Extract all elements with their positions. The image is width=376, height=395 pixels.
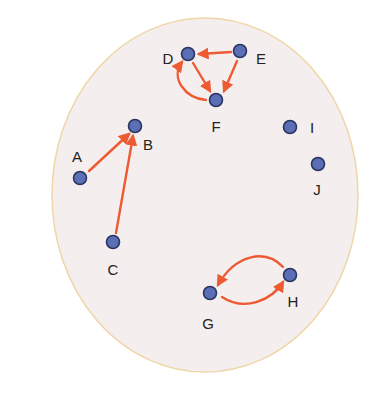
node-circle [312, 158, 325, 171]
node-circle [204, 287, 217, 300]
node-circle [182, 48, 195, 61]
node-label: G [202, 315, 214, 332]
node-circle [129, 120, 142, 133]
node-label: D [163, 50, 174, 67]
node-label: F [211, 118, 220, 135]
node-circle [107, 236, 120, 249]
node-label: I [310, 119, 314, 136]
graph-diagram: ABCDEFGHIJ [0, 0, 376, 395]
node-circle [284, 121, 297, 134]
node-label: E [256, 50, 266, 67]
node-label: B [143, 136, 153, 153]
node-circle [284, 269, 297, 282]
node-label: C [108, 261, 119, 278]
node-label: J [313, 181, 321, 198]
node-circle [234, 45, 247, 58]
node-label: H [288, 293, 299, 310]
node-circle [74, 172, 87, 185]
node-label: A [72, 148, 82, 165]
node-circle [210, 94, 223, 107]
